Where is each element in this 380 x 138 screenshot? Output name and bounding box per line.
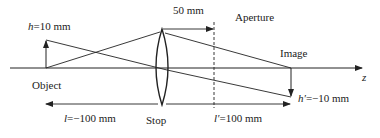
image-height-value: =−10 mm: [306, 92, 349, 104]
object-label: Object: [32, 79, 61, 91]
object-distance-value: =−100 mm: [67, 112, 116, 124]
image-height-var: h′: [298, 92, 306, 104]
object-distance-label: l=−100 mm: [64, 112, 116, 124]
image-label: Image: [280, 47, 307, 59]
ray-object-base: [46, 32, 160, 68]
image-distance-label: l′=100 mm: [214, 112, 262, 124]
image-height-label: h′=−10 mm: [298, 92, 349, 104]
image-distance-value: =100 mm: [219, 112, 262, 124]
ray-to-image-tip: [167, 70, 291, 97]
ray-object-tip: [46, 40, 167, 70]
object-height-label: h=10 mm: [28, 20, 71, 32]
axis-z-label: z: [362, 71, 366, 83]
object-height-value: =10 mm: [34, 20, 71, 32]
stop-label: Stop: [146, 114, 166, 126]
ray-to-image-base: [165, 33, 291, 68]
lens: [156, 29, 168, 105]
stop-aperture-distance-label: 50 mm: [173, 4, 204, 16]
aperture-label: Aperture: [235, 11, 274, 23]
